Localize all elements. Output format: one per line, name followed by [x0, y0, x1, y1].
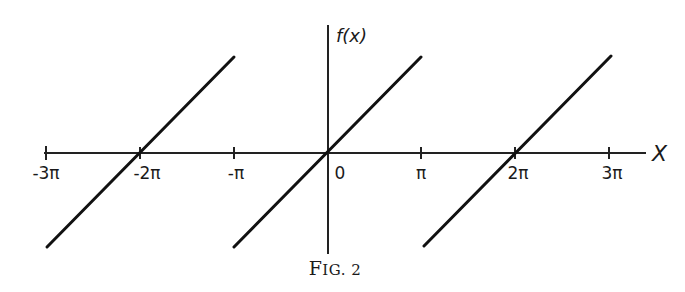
tick-label: -3π	[32, 163, 59, 183]
figure-caption: FIG. 2	[309, 257, 362, 279]
tick-label: 0	[335, 163, 346, 183]
line-segment	[424, 56, 611, 246]
tick-label: -2π	[133, 163, 160, 183]
y-axis-label: f(x)	[336, 25, 367, 46]
sawtooth-plot: -3π -2π -π 0 π 2π 3π X f(x) FIG. 2	[0, 0, 685, 292]
tick-label: -π	[228, 163, 244, 183]
tick-label: π	[416, 163, 426, 183]
tick-label: 3π	[601, 163, 622, 183]
tick-label: 2π	[507, 163, 528, 183]
x-axis-label: X	[651, 141, 668, 166]
